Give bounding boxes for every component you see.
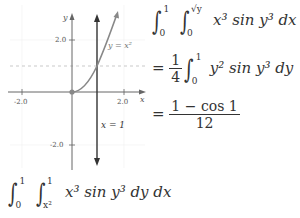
- grid-lines: [10, 5, 145, 168]
- x-axis: [8, 89, 146, 95]
- y-tick-neg2: -2.0: [50, 141, 64, 149]
- result-fraction: 1 − cos 112: [169, 98, 239, 131]
- x-axis-label: x: [140, 95, 145, 104]
- step-3: = 1 − cos 112: [152, 98, 240, 131]
- curve-arrow: [114, 11, 120, 19]
- integrand-top: x³ sin y³ dx dy: [213, 11, 300, 29]
- graph-plot: -2.0 2.0 2.0 -2.0 x y y = x² x = 1: [0, 0, 150, 170]
- coef-fraction: 14: [169, 52, 182, 85]
- integrand-step2: y² sin y³ dy: [210, 59, 294, 77]
- x-tick-neg2: -2.0: [14, 98, 28, 106]
- line-label: x = 1: [101, 120, 125, 130]
- origin-point: [69, 89, 74, 94]
- y-tick-2: 2.0: [55, 36, 66, 44]
- integral-dydx: ∫10∫1x²x³ sin y³ dy dx: [6, 178, 171, 208]
- x-tick-2: 2.0: [117, 98, 128, 106]
- step-2: = 14∫10y² sin y³ dy: [152, 52, 293, 85]
- vertical-line-x1: [94, 14, 100, 166]
- curve-label: y = x²: [107, 41, 132, 50]
- integral-dxdy: ∫10∫√y0x³ sin y³ dx dy: [150, 6, 300, 36]
- y-axis-label: y: [62, 13, 68, 22]
- parabola-curve: [72, 14, 117, 92]
- integrand-bottom: x³ sin y³ dy dx: [65, 183, 171, 201]
